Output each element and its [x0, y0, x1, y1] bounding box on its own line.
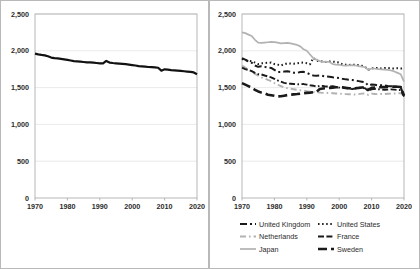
x-tick-label: 2010 — [364, 202, 380, 211]
legend-label-netherlands: Netherlands — [259, 232, 298, 241]
right-chart-panel: 05001,0001,5002,0002,5001970198019902000… — [209, 0, 420, 269]
plot-frame — [35, 14, 197, 198]
x-tick-label: 1980 — [266, 202, 282, 211]
y-tick-label: 1,000 — [11, 120, 29, 129]
x-tick-label: 1970 — [27, 202, 43, 211]
x-tick-label: 2000 — [331, 202, 347, 211]
legend-label-france: France — [337, 232, 359, 241]
legend-label-sweden: Sweden — [337, 245, 363, 254]
legend-label-united-kingdom: United Kingdom — [259, 220, 310, 229]
legend-label-united-states: United States — [337, 220, 381, 229]
x-tick-label: 1980 — [59, 202, 75, 211]
y-tick-label: 1,000 — [218, 120, 236, 129]
x-tick-label: 2020 — [396, 202, 412, 211]
y-tick-label: 1,500 — [218, 83, 236, 92]
left-chart-svg: 05001,0001,5002,0002,5001970198019902000… — [1, 1, 208, 268]
y-tick-label: 2,000 — [11, 46, 29, 55]
x-tick-label: 1990 — [92, 202, 108, 211]
y-tick-label: 2,000 — [218, 46, 236, 55]
series-line-japan — [242, 32, 404, 81]
y-tick-label: 500 — [224, 157, 236, 166]
y-tick-label: 1,500 — [11, 83, 29, 92]
series-line-united-kingdom — [242, 58, 404, 96]
y-tick-label: 2,500 — [218, 10, 236, 19]
x-tick-label: 2010 — [157, 202, 173, 211]
left-chart-panel: 05001,0001,5002,0002,5001970198019902000… — [0, 0, 209, 269]
right-chart-svg: 05001,0001,5002,0002,5001970198019902000… — [210, 1, 419, 268]
series-line-average — [35, 54, 197, 75]
two-panel-line-chart-figure: 05001,0001,5002,0002,5001970198019902000… — [0, 0, 420, 269]
x-tick-label: 2020 — [189, 202, 205, 211]
y-tick-label: 500 — [17, 157, 29, 166]
x-tick-label: 1970 — [234, 202, 250, 211]
x-tick-label: 1990 — [299, 202, 315, 211]
y-tick-label: 2,500 — [11, 10, 29, 19]
x-tick-label: 2000 — [124, 202, 140, 211]
legend-label-japan: Japan — [259, 245, 279, 254]
